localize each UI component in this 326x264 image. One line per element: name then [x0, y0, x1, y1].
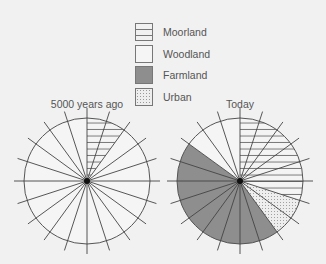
pie-5000-years-ago: [14, 108, 160, 254]
pie-charts: [0, 0, 326, 264]
pie-today: [167, 108, 313, 254]
